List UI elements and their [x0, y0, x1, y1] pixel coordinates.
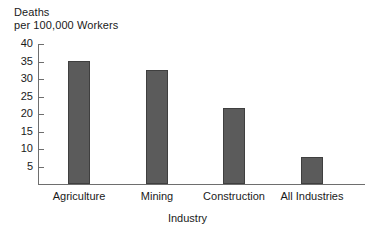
bar [146, 70, 168, 184]
x-axis-category-label: All Industries [252, 190, 372, 202]
bar-chart: Deaths per 100,000 Workers 4035302520151… [0, 0, 375, 234]
bar [301, 157, 323, 184]
bar [68, 61, 90, 184]
x-axis-title: Industry [0, 212, 375, 224]
bar [223, 108, 245, 184]
